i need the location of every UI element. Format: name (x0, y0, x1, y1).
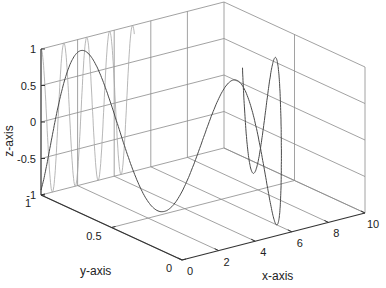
y-tick-label: 1 (25, 197, 31, 209)
x-tick-label: 8 (333, 227, 339, 239)
z-axis-label: z-axis (2, 125, 16, 156)
x-tick-label: 2 (224, 256, 230, 268)
y-tick-label: 0 (166, 262, 172, 274)
y-axis-label: y-axis (80, 264, 111, 278)
grid-lines (41, 2, 365, 260)
x-axis-label: x-axis (262, 269, 293, 283)
y-tick (112, 227, 116, 228)
x-tick-label: 10 (367, 218, 379, 230)
x-tick (324, 220, 328, 222)
z-tick-label: 0 (30, 116, 36, 128)
z-tick-label: 0.5 (21, 80, 36, 92)
y-tick-label: 0.5 (86, 230, 101, 242)
z-tick-label: -0.5 (17, 153, 36, 165)
x-tick-label: 6 (297, 237, 303, 249)
z-tick-label: 1 (30, 43, 36, 55)
x-tick-label: 0 (187, 265, 193, 277)
x-tick (251, 239, 255, 241)
x-tick-label: 4 (260, 246, 266, 258)
x-tick (215, 249, 219, 251)
grid-line-back-z (41, 39, 224, 86)
y-tick (182, 259, 186, 260)
grid-line-back-z (41, 112, 224, 159)
curve-back-wall (41, 26, 134, 193)
x-tick (288, 230, 292, 232)
3d-line-plot: -1-0.500.5100.510246810 x-axis y-axis z-… (0, 0, 386, 288)
x-tick (361, 211, 365, 213)
data-curves (41, 26, 281, 225)
